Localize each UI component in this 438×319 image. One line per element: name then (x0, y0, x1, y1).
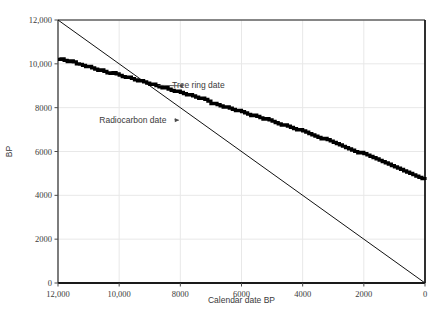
y-tick-label: 12,000 (29, 15, 52, 25)
x-tick-label: 4000 (294, 289, 311, 299)
y-tick-label: 8000 (35, 103, 52, 113)
chart-canvas: 12,00010,00080006000400020000 0200040006… (0, 0, 438, 319)
x-axis-title: Calendar date BP (208, 295, 275, 305)
radiocarbon-calibration-chart: 12,00010,00080006000400020000 0200040006… (0, 0, 438, 319)
annotation-arrowhead (175, 118, 179, 122)
x-tick-label: 2000 (355, 289, 372, 299)
y-tick-label: 2000 (35, 234, 52, 244)
y-tick-label: 6000 (35, 147, 52, 157)
x-tick-label: 10,000 (107, 289, 130, 299)
y-axis-ticks: 0200040006000800010,00012,000 (29, 15, 58, 288)
x-tick-label: 8000 (172, 289, 189, 299)
x-tick-label: 0 (423, 289, 427, 299)
y-tick-label: 4000 (35, 190, 52, 200)
annotation-label-radiocarbon-date: Radiocarbon date (99, 115, 166, 125)
y-tick-label: 10,000 (29, 59, 52, 69)
x-tick-label: 12,000 (46, 289, 69, 299)
y-axis-title: BP (4, 146, 14, 158)
y-tick-label: 0 (48, 278, 52, 288)
